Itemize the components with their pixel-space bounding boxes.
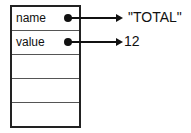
object-box: name value (10, 5, 81, 128)
referenced-value: 12 (124, 33, 140, 49)
arrowhead-icon (116, 38, 123, 46)
cell-label: name (16, 11, 46, 25)
cell-empty (12, 103, 79, 127)
arrowhead-icon (116, 14, 123, 22)
referenced-value: "TOTAL" (128, 9, 182, 25)
arrow-line (68, 17, 116, 19)
cell-empty (12, 79, 79, 103)
cell-empty (12, 55, 79, 79)
cell-label: value (16, 35, 45, 49)
arrow-line (68, 41, 116, 43)
